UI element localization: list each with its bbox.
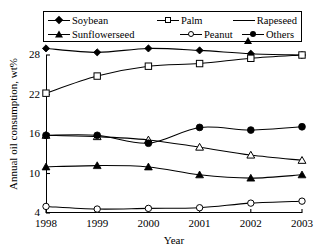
- x-tick-label: 1999: [77, 218, 117, 229]
- chart-plot-area: [0, 0, 328, 252]
- x-tick-label: 2000: [128, 218, 168, 229]
- x-tick-label: 2002: [231, 218, 271, 229]
- y-tick-label: 16: [18, 128, 40, 139]
- x-tick-label: 2003: [282, 218, 322, 229]
- y-tick-label: 28: [18, 49, 40, 60]
- y-tick-label: 10: [18, 168, 40, 179]
- x-tick-label: 2001: [180, 218, 220, 229]
- y-axis-title: Annual oil consumption, wt%: [7, 44, 19, 204]
- y-tick-label: 22: [18, 89, 40, 100]
- x-axis-title: Year: [46, 234, 302, 246]
- chart-container: Soybean Palm Rapeseed Sunflowerseed Pean…: [0, 0, 328, 252]
- x-tick-label: 1998: [26, 218, 66, 229]
